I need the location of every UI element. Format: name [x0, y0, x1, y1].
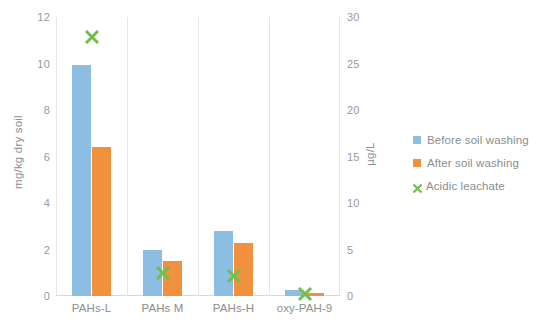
right-axis-line	[339, 17, 340, 296]
category-separator-gridline	[127, 17, 128, 296]
left-axis-line	[56, 17, 57, 296]
category-label-pahs-m: PAHs M	[127, 302, 198, 314]
plot-area	[56, 17, 340, 296]
bar-after-soil-washing[interactable]	[92, 147, 111, 296]
category-separator-gridline	[198, 17, 199, 296]
right-axis-tick-label: 10	[347, 198, 360, 209]
legend-label: Before soil washing	[427, 134, 529, 146]
right-axis-title: µg/L	[364, 124, 376, 184]
legend-color-swatch	[413, 159, 421, 167]
bar-after-soil-washing[interactable]	[305, 293, 324, 296]
right-axis-tick-label: 25	[347, 59, 360, 70]
left-axis-tick-label: 4	[44, 198, 50, 209]
legend-label: After soil washing	[427, 157, 519, 169]
legend-item[interactable]: After soil washing	[413, 152, 541, 173]
right-axis-tick-label: 20	[347, 105, 360, 116]
left-axis-tick-label: 2	[44, 245, 50, 256]
left-axis-tick-label: 6	[44, 152, 50, 163]
right-axis-tick-label: 5	[347, 245, 353, 256]
category-label-oxy-pah-9: oxy-PAH-9	[269, 302, 340, 314]
bar-chart: mg/kg dry soil 121086420 302520151050 µg…	[0, 0, 543, 327]
category-axis-labels: PAHs-LPAHs MPAHs-Hoxy-PAH-9	[56, 302, 340, 322]
legend: Before soil washingAfter soil washingAci…	[413, 129, 541, 198]
legend-item[interactable]: Before soil washing	[413, 129, 541, 150]
bar-before-soil-washing[interactable]	[285, 290, 304, 296]
left-axis-ticks: 121086420	[26, 0, 50, 327]
category-separator-gridline	[269, 17, 270, 296]
legend-x-marker-icon	[412, 180, 423, 191]
category-label-pahs-h: PAHs-H	[198, 302, 269, 314]
category-label-pahs-l: PAHs-L	[56, 302, 127, 314]
left-axis-tick-label: 8	[44, 105, 50, 116]
acidic-leachate-x-marker[interactable]	[81, 26, 103, 48]
legend-item[interactable]: Acidic leachate	[413, 175, 541, 196]
bar-after-soil-washing[interactable]	[163, 261, 182, 296]
bar-before-soil-washing[interactable]	[143, 250, 162, 297]
bar-before-soil-washing[interactable]	[72, 65, 91, 296]
legend-color-swatch	[413, 136, 421, 144]
legend-label: Acidic leachate	[426, 180, 505, 192]
right-axis-tick-label: 30	[347, 12, 360, 23]
left-axis-tick-label: 10	[37, 59, 50, 70]
right-axis-tick-label: 0	[347, 291, 353, 302]
right-axis-tick-label: 15	[347, 152, 360, 163]
left-axis-tick-label: 0	[44, 291, 50, 302]
bar-before-soil-washing[interactable]	[214, 231, 233, 296]
left-axis-tick-label: 12	[37, 12, 50, 23]
bar-after-soil-washing[interactable]	[234, 243, 253, 296]
left-axis-title: mg/kg dry soil	[12, 87, 24, 217]
